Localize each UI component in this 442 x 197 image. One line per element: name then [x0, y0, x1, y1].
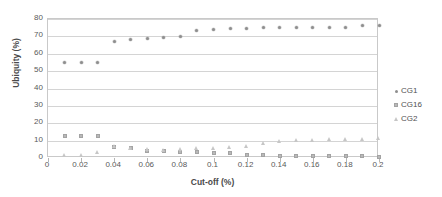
legend-item-label: CG16 [401, 101, 422, 109]
x-tick-label: 0.08 [162, 161, 196, 169]
data-point-cg2 [327, 137, 331, 141]
data-point-cg1 [328, 26, 331, 29]
data-point-cg2 [112, 144, 116, 148]
data-point-cg1 [229, 27, 232, 30]
data-point-cg16 [245, 153, 249, 157]
data-point-cg1 [361, 24, 364, 27]
data-point-cg2 [294, 138, 298, 142]
data-point-cg16 [63, 134, 67, 138]
legend-item-label: CG2 [401, 115, 417, 123]
legend-item-label: CG1 [401, 87, 417, 95]
diamond-marker-icon [392, 90, 400, 93]
x-tick-label: 0.06 [129, 161, 163, 169]
gridline [48, 19, 377, 20]
data-point-cg1 [344, 26, 347, 29]
gridline [48, 36, 377, 37]
data-point-cg2 [227, 145, 231, 149]
data-point-cg16 [228, 151, 232, 155]
chart-legend: CG1CG16CG2 [392, 84, 422, 126]
data-point-cg1 [295, 26, 298, 29]
triangle-marker-icon [392, 117, 400, 121]
data-point-cg2 [211, 146, 215, 150]
x-tick-label: 0 [30, 161, 64, 169]
data-point-cg16 [79, 134, 83, 138]
x-axis-title: Cut-off (%) [47, 177, 378, 187]
data-point-cg1 [212, 28, 215, 31]
data-point-cg2 [244, 144, 248, 148]
data-point-cg2 [178, 147, 182, 151]
data-point-cg16 [212, 151, 216, 155]
y-tick-label: 0 [3, 153, 43, 161]
y-tick-label: 70 [3, 31, 43, 39]
data-point-cg2 [95, 150, 99, 154]
data-point-cg2 [62, 153, 66, 157]
legend-item-cg2[interactable]: CG2 [392, 112, 422, 126]
data-point-cg16 [195, 150, 199, 154]
data-point-cg1 [113, 40, 116, 43]
gridline [48, 123, 377, 124]
x-tick-label: 0.1 [196, 161, 230, 169]
y-tick-label: 80 [3, 14, 43, 22]
data-point-cg2 [261, 141, 265, 145]
data-point-cg2 [343, 137, 347, 141]
data-point-cg2 [194, 146, 198, 150]
x-tick-label: 0.18 [328, 161, 362, 169]
y-tick-label: 60 [3, 49, 43, 57]
gridline [48, 71, 377, 72]
y-tick-label: 40 [3, 84, 43, 92]
data-point-cg16 [278, 154, 282, 158]
data-point-cg2 [79, 153, 83, 157]
data-point-cg2 [310, 138, 314, 142]
data-point-cg1 [162, 36, 165, 39]
y-tick-label: 50 [3, 66, 43, 74]
gridline [48, 54, 377, 55]
y-tick-label: 30 [3, 101, 43, 109]
data-point-cg16 [261, 153, 265, 157]
data-point-cg2 [376, 136, 380, 140]
y-tick-label: 10 [3, 136, 43, 144]
data-point-cg2 [360, 137, 364, 141]
data-point-cg2 [145, 147, 149, 151]
x-tick-label: 0.16 [295, 161, 329, 169]
data-point-cg16 [294, 154, 298, 158]
x-tick-label: 0.14 [262, 161, 296, 169]
data-point-cg2 [277, 139, 281, 143]
data-point-cg1 [245, 27, 248, 30]
data-point-cg1 [129, 38, 132, 41]
square-marker-icon [392, 103, 400, 107]
data-point-cg1 [262, 26, 265, 29]
data-point-cg16 [311, 154, 315, 158]
data-point-cg16 [327, 154, 331, 158]
x-tick-label: 0.04 [96, 161, 130, 169]
gridline [48, 89, 377, 90]
data-point-cg2 [161, 148, 165, 152]
gridline [48, 106, 377, 107]
data-point-cg1 [378, 24, 381, 27]
legend-item-cg1[interactable]: CG1 [392, 84, 422, 98]
data-point-cg1 [179, 35, 182, 38]
data-point-cg16 [344, 154, 348, 158]
data-point-cg1 [311, 26, 314, 29]
data-point-cg1 [146, 37, 149, 40]
data-point-cg1 [195, 29, 198, 32]
data-point-cg16 [377, 155, 381, 159]
data-point-cg16 [96, 134, 100, 138]
data-point-cg2 [128, 146, 132, 150]
x-tick-label: 0.02 [63, 161, 97, 169]
x-tick-label: 0.12 [229, 161, 263, 169]
legend-item-cg16[interactable]: CG16 [392, 98, 422, 112]
y-tick-label: 20 [3, 118, 43, 126]
data-point-cg1 [278, 26, 281, 29]
plot-area [47, 18, 378, 157]
data-point-cg1 [80, 61, 83, 64]
scatter-chart: Ubiquity (%) 01020304050607080 00.020.04… [0, 0, 442, 197]
x-tick-label: 0.2 [361, 161, 395, 169]
data-point-cg16 [360, 154, 364, 158]
data-point-cg1 [63, 61, 66, 64]
data-point-cg1 [96, 61, 99, 64]
